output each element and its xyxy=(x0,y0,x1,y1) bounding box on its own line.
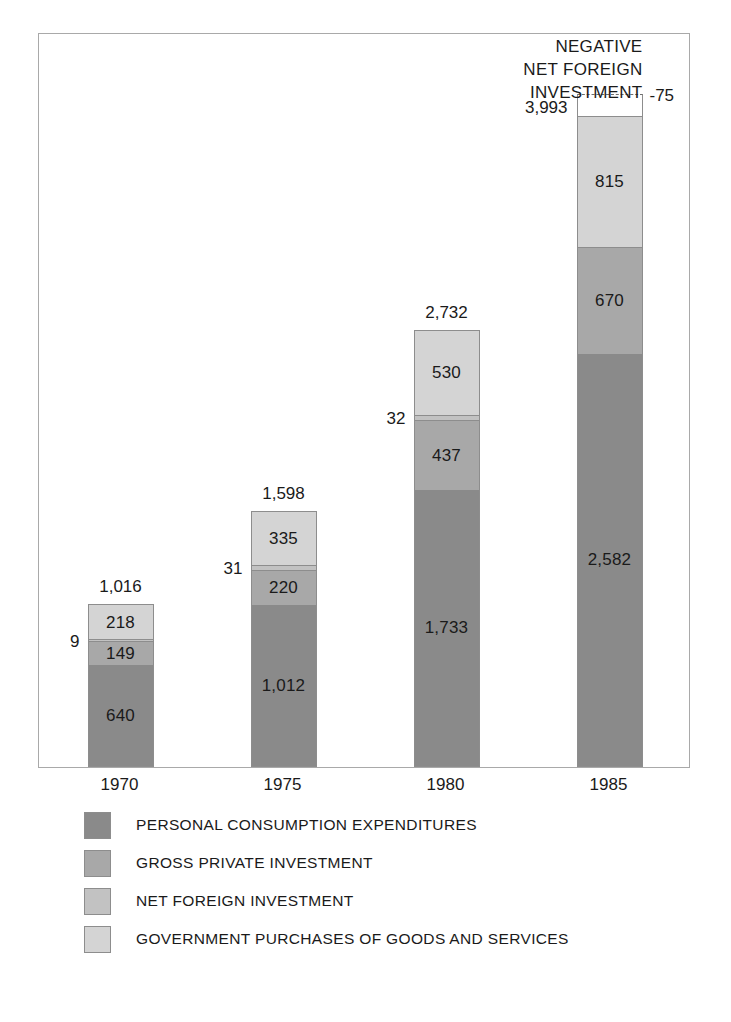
legend-item[interactable]: GROSS PRIVATE INVESTMENT xyxy=(84,844,684,882)
bar-segment[interactable]: 32 xyxy=(414,415,480,420)
bar-stack: 6401499218 xyxy=(88,604,154,767)
x-axis-tick-1970: 1970 xyxy=(101,775,139,795)
bar-stack: 2,582670815-75 xyxy=(577,94,643,767)
x-axis-tick-1980: 1980 xyxy=(427,775,465,795)
annotation-line-3: INVESTMENT xyxy=(523,81,642,104)
bar-segment[interactable]: 31 xyxy=(251,565,317,570)
legend-swatch xyxy=(84,888,111,915)
segment-value-label: 149 xyxy=(106,645,135,662)
bar-segment[interactable]: 9 xyxy=(88,639,154,640)
segment-value-label: 670 xyxy=(595,292,624,309)
segment-value-label: 640 xyxy=(106,707,135,724)
legend-swatch xyxy=(84,850,111,877)
segment-value-label: 1,733 xyxy=(425,619,469,636)
chart-page: 64014992181,0161,012220313351,5981,73343… xyxy=(0,0,731,1022)
segment-value-label: 437 xyxy=(432,447,461,464)
bar-group-1975[interactable]: 1,012220313351,598 xyxy=(251,471,317,767)
bar-stack: 1,01222031335 xyxy=(251,511,317,767)
bar-segment[interactable]: 149 xyxy=(88,641,154,665)
legend-item[interactable]: NET FOREIGN INVESTMENT xyxy=(84,882,684,920)
segment-value-label: 220 xyxy=(269,579,298,596)
bar-total-label: 2,732 xyxy=(425,304,468,321)
bar-total-label: 1,598 xyxy=(262,485,305,502)
plot-frame: 64014992181,0161,012220313351,5981,73343… xyxy=(38,33,690,768)
segment-value-label: 815 xyxy=(595,173,624,190)
chart-legend: PERSONAL CONSUMPTION EXPENDITURESGROSS P… xyxy=(84,806,684,958)
annotation-line-1: NEGATIVE xyxy=(523,35,642,58)
legend-label: GROSS PRIVATE INVESTMENT xyxy=(136,854,373,872)
bar-segment[interactable]: 1,012 xyxy=(251,605,317,767)
negative-investment-annotation: NEGATIVE NET FOREIGN INVESTMENT xyxy=(523,35,642,104)
legend-label: NET FOREIGN INVESTMENT xyxy=(136,892,354,910)
segment-value-label: 2,582 xyxy=(588,551,632,568)
annotation-line-2: NET FOREIGN xyxy=(523,58,642,81)
segment-side-label: 31 xyxy=(224,560,243,577)
bar-segment[interactable]: 1,733 xyxy=(414,490,480,767)
bar-group-1980[interactable]: 1,733437325302,732 xyxy=(414,290,480,767)
legend-swatch xyxy=(84,926,111,953)
bar-segment[interactable]: 218 xyxy=(88,604,154,639)
legend-label: PERSONAL CONSUMPTION EXPENDITURES xyxy=(136,816,477,834)
bar-segment[interactable]: 220 xyxy=(251,570,317,605)
segment-side-label: 32 xyxy=(387,410,406,427)
segment-value-label: 530 xyxy=(432,364,461,381)
legend-swatch xyxy=(84,812,111,839)
segment-side-label: -75 xyxy=(650,87,675,104)
segment-side-label: 9 xyxy=(70,633,79,650)
legend-item[interactable]: PERSONAL CONSUMPTION EXPENDITURES xyxy=(84,806,684,844)
segment-value-label: 218 xyxy=(106,614,135,631)
bar-total-label: 1,016 xyxy=(99,578,142,595)
bar-segment[interactable]: 437 xyxy=(414,420,480,490)
segment-value-label: 1,012 xyxy=(262,677,306,694)
bar-segment[interactable]: 670 xyxy=(577,247,643,354)
bar-group-1985[interactable]: 2,582670815-753,993 xyxy=(577,54,643,767)
bar-segment[interactable]: 530 xyxy=(414,330,480,415)
bar-segment[interactable]: 815 xyxy=(577,116,643,246)
bar-stack: 1,73343732530 xyxy=(414,330,480,767)
bar-segment[interactable]: 2,582 xyxy=(577,354,643,767)
x-axis: 1970197519801985 xyxy=(38,775,690,805)
bar-segment[interactable]: 640 xyxy=(88,665,154,767)
x-axis-tick-1975: 1975 xyxy=(264,775,302,795)
legend-item[interactable]: GOVERNMENT PURCHASES OF GOODS AND SERVIC… xyxy=(84,920,684,958)
legend-label: GOVERNMENT PURCHASES OF GOODS AND SERVIC… xyxy=(136,930,569,948)
bar-segment[interactable]: 335 xyxy=(251,511,317,565)
x-axis-tick-1985: 1985 xyxy=(590,775,628,795)
bar-group-1970[interactable]: 64014992181,016 xyxy=(88,564,154,767)
segment-value-label: 335 xyxy=(269,530,298,547)
